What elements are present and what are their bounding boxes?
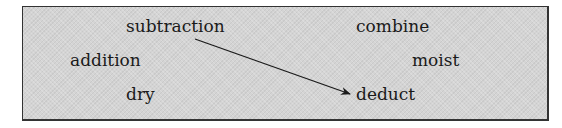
arrow-subtraction-to-deduct xyxy=(0,0,562,128)
